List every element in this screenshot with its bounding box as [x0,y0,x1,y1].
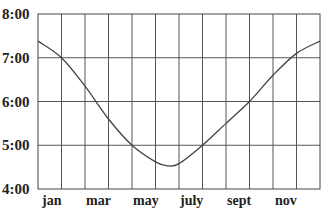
chart: 8:00 7:00 6:00 5:00 4:00 jan mar may jul… [0,0,326,218]
x-tick-label: mar [86,193,111,208]
gridlines [38,14,320,189]
x-tick-label: may [133,193,159,208]
x-axis-labels: jan mar may july sept nov [41,193,297,208]
x-tick-label: nov [275,193,297,208]
y-tick-label: 5:00 [2,137,30,153]
y-tick-label: 4:00 [2,181,30,197]
y-tick-label: 6:00 [2,94,30,110]
y-tick-label: 8:00 [2,6,30,22]
x-tick-label: jan [41,193,62,208]
x-tick-label: sept [227,193,251,208]
y-tick-label: 7:00 [2,50,30,66]
x-tick-label: july [179,193,203,208]
y-axis-labels: 8:00 7:00 6:00 5:00 4:00 [2,6,30,197]
